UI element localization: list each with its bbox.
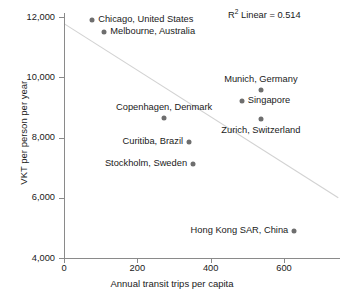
- data-point: [187, 140, 192, 145]
- data-point: [239, 99, 244, 104]
- data-point-label: Singapore: [248, 97, 290, 106]
- x-tick-label: 200: [130, 264, 146, 273]
- data-point-label: Chicago, United States: [98, 15, 193, 24]
- regression-fit-line: [0, 0, 344, 295]
- data-point-label: Munich, Germany: [224, 75, 297, 84]
- y-tick-mark: [59, 77, 64, 78]
- data-point-label: Hong Kong SAR, China: [191, 226, 289, 235]
- x-axis-title: Annual transit trips per capita: [0, 279, 344, 289]
- y-tick-label: 10,000: [27, 73, 55, 82]
- x-tick-label: 600: [276, 264, 292, 273]
- y-axis-title: VKT per person per year: [19, 53, 29, 213]
- x-tick-label: 0: [61, 264, 66, 273]
- data-point: [191, 162, 196, 167]
- data-point-label: Copenhagen, Denmark: [116, 103, 212, 112]
- data-point: [102, 30, 107, 35]
- data-point: [162, 115, 167, 120]
- data-point: [258, 88, 263, 93]
- data-point: [90, 18, 95, 23]
- data-point-label: Melbourne, Australia: [110, 27, 195, 36]
- data-point: [292, 228, 297, 233]
- x-tick-label: 400: [203, 264, 219, 273]
- data-point-label: Zurich, Switzerland: [221, 125, 300, 134]
- y-tick-mark: [59, 138, 64, 139]
- r-squared-value: Linear = 0.514: [238, 10, 300, 20]
- y-tick-label: 4,000: [32, 254, 55, 263]
- data-point: [258, 116, 263, 121]
- y-axis-line: [64, 13, 65, 259]
- r-squared-symbol: R: [228, 10, 235, 20]
- y-tick-mark: [59, 17, 64, 18]
- x-axis-line: [64, 258, 340, 259]
- scatter-chart: 4,0006,0008,00010,00012,000 0200400600 C…: [0, 0, 344, 295]
- y-tick-label: 12,000: [27, 13, 55, 22]
- y-tick-mark: [59, 198, 64, 199]
- y-tick-label: 6,000: [32, 193, 55, 202]
- data-point-label: Curitiba, Brazil: [123, 137, 183, 146]
- y-tick-label: 8,000: [32, 133, 55, 142]
- r-squared-annotation: R2 Linear = 0.514: [228, 11, 301, 20]
- data-point-label: Stockholm, Sweden: [105, 159, 187, 168]
